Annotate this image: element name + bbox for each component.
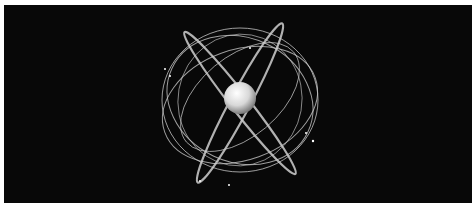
orbits-graphic — [4, 5, 472, 203]
earth-globe — [224, 82, 256, 114]
orbit-illustration — [4, 5, 472, 203]
